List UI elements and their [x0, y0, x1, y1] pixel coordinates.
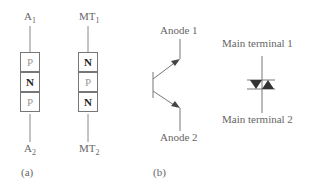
caption-b: (b) — [153, 166, 166, 178]
label-main-terminal-1: Main terminal 1 — [222, 37, 293, 49]
terminal-label-mt1: MT1 — [79, 10, 100, 25]
diagram-lines — [0, 0, 310, 186]
layer-n-middle: N — [20, 72, 40, 92]
layer-p-top: P — [20, 52, 40, 72]
bidirectional-transistor-symbol — [153, 39, 180, 131]
terminal-label-a1: A1 — [24, 10, 36, 25]
label-anode-1: Anode 1 — [160, 24, 198, 36]
layer-p-middle: P — [78, 72, 98, 92]
diac-symbol — [247, 56, 275, 113]
layer-n-bottom: N — [78, 92, 98, 112]
terminal-label-mt2: MT2 — [79, 142, 100, 157]
caption-a: (a) — [21, 166, 33, 178]
terminal-label-a2: A2 — [24, 142, 36, 157]
label-anode-2: Anode 2 — [160, 131, 198, 143]
layer-p-bottom: P — [20, 92, 40, 112]
layer-n-top: N — [78, 52, 98, 72]
label-main-terminal-2: Main terminal 2 — [222, 113, 293, 125]
